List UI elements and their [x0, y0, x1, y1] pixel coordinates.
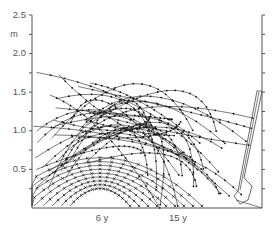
- trajectory-curves: [32, 72, 254, 208]
- y-axis-unit: m: [10, 29, 18, 39]
- growth-chart: 2.5 m 2.0 1.5 1.0 0.5 6 y 15 y: [0, 0, 274, 231]
- x-label-15y: 15 y: [169, 212, 187, 223]
- x-label-6y: 6 y: [96, 212, 109, 223]
- y-tick-label-0-5: 0.5: [13, 163, 26, 174]
- y-tick-label-2-0: 2.0: [13, 47, 26, 58]
- y-tick-label-1-0: 1.0: [13, 124, 26, 135]
- y-tick-label-1-5: 1.5: [13, 86, 26, 97]
- y-tick-label-2-5: 2.5: [13, 9, 26, 20]
